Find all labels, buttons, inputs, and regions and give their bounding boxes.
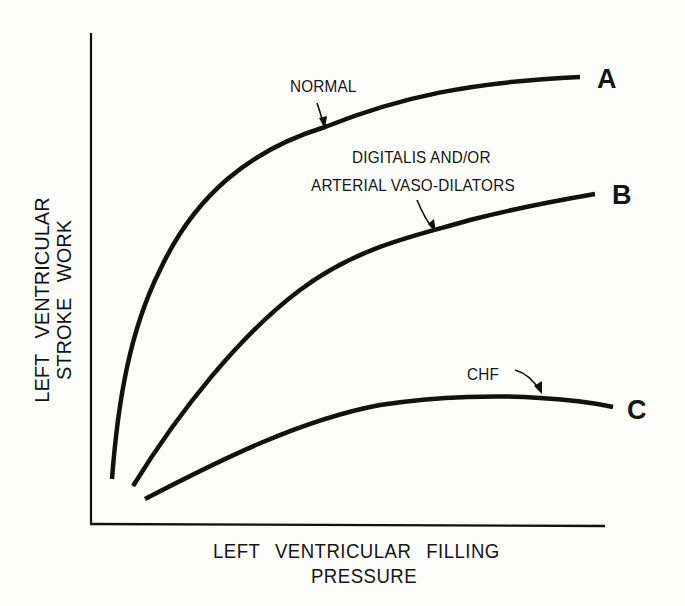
arrow-chf-icon: [515, 370, 542, 394]
x-axis-title-line2: PRESSURE: [311, 566, 417, 586]
curve-a-normal: [112, 77, 580, 479]
arrow-normal-icon: [317, 103, 327, 129]
y-axis-title-line1: LEFT VENTRICULAR: [32, 170, 52, 430]
curve-letter-a: A: [597, 66, 617, 93]
curve-letter-b: B: [612, 182, 632, 209]
label-chf: CHF: [467, 366, 499, 383]
x-axis-line: [90, 524, 605, 526]
label-digitalis-line1: DIGITALIS AND/OR: [352, 149, 491, 166]
arrow-digitalis-icon: [417, 200, 436, 232]
label-normal: NORMAL: [290, 78, 357, 95]
curve-c-chf: [145, 396, 613, 499]
frank-starling-chart: NORMAL DIGITALIS AND/OR ARTERIAL VASO-DI…: [0, 0, 685, 606]
curve-letter-c: C: [627, 397, 647, 424]
x-axis-title-line1: LEFT VENTRICULAR FILLING: [213, 541, 500, 561]
curve-b-digitalis: [133, 194, 595, 486]
label-digitalis-line2: ARTERIAL VASO-DILATORS: [311, 177, 515, 194]
y-axis-title-line2: STROKE WORK: [54, 170, 74, 430]
